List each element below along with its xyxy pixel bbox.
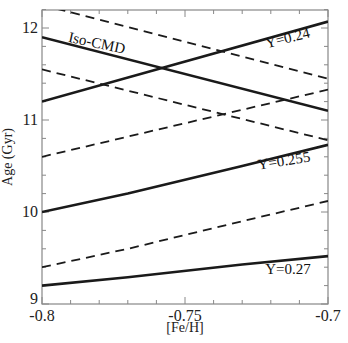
x-axis-label: [Fe/H] <box>166 320 203 335</box>
annotations: Iso-CMDY=0.24Y=0.255Y=0.27 <box>67 24 312 276</box>
series-line <box>42 201 328 267</box>
chart: -0.8-0.75-0.79101112 [Fe/H] Age (Gyr) Is… <box>0 0 348 343</box>
y-tick-label: 12 <box>22 19 38 36</box>
annotation-label: Y=0.27 <box>265 261 311 277</box>
annotation-label: Y=0.255 <box>256 149 311 173</box>
tick-labels: -0.8-0.75-0.79101112 <box>22 19 341 324</box>
y-tick-label: 10 <box>22 203 38 220</box>
y-axis-label: Age (Gyr) <box>0 128 16 186</box>
x-tick-label: -0.7 <box>315 307 340 324</box>
x-tick-label: -0.8 <box>29 307 54 324</box>
y-tick-label: 9 <box>30 290 38 307</box>
annotation-label: Y=0.24 <box>264 24 313 51</box>
series-line <box>42 69 328 140</box>
y-tick-label: 11 <box>23 111 38 128</box>
